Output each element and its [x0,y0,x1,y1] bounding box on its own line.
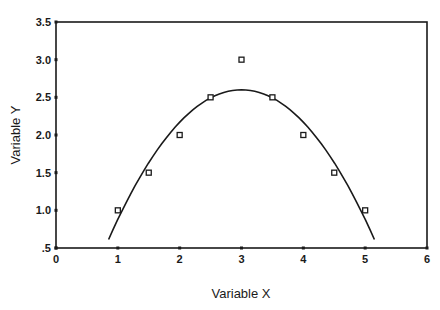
data-point-marker [208,95,213,100]
y-tick-label: .5 [42,242,51,254]
data-point-marker [332,170,337,175]
data-point-marker [239,57,244,62]
data-point-marker [270,95,275,100]
y-tick-label: 2.0 [36,129,51,141]
data-point-marker [177,133,182,138]
y-axis-ticks: .51.01.52.02.53.03.5 [36,16,58,254]
y-axis-label: Variable Y [8,105,23,164]
x-tick-label: 1 [115,253,121,265]
x-tick-mark [302,247,305,250]
x-axis-ticks: 0123456 [53,247,430,266]
y-tick-label: 2.5 [36,91,51,103]
y-tick-mark [55,96,58,99]
x-tick-label: 2 [177,253,183,265]
y-tick-mark [55,247,58,250]
x-tick-label: 6 [424,253,430,265]
plot-frame [56,22,427,248]
x-tick-mark [364,247,367,250]
y-tick-label: 1.5 [36,167,51,179]
x-tick-mark [116,247,119,250]
x-tick-label: 4 [300,253,307,265]
y-tick-mark [55,21,58,24]
y-tick-label: 1.0 [36,204,51,216]
scatter-chart: 0123456 .51.01.52.02.53.03.5 Variable X … [0,0,440,310]
x-tick-mark [178,247,181,250]
x-tick-label: 3 [238,253,244,265]
data-point-marker [115,208,120,213]
x-tick-label: 5 [362,253,368,265]
y-tick-label: 3.5 [36,16,51,28]
y-tick-mark [55,58,58,61]
y-tick-mark [55,209,58,212]
data-points [115,57,367,213]
y-tick-mark [55,134,58,137]
fit-curve [109,90,375,240]
x-tick-mark [240,247,243,250]
data-point-marker [363,208,368,213]
data-point-marker [146,170,151,175]
x-axis-label: Variable X [211,286,270,301]
y-tick-label: 3.0 [36,54,51,66]
x-tick-mark [426,247,429,250]
y-tick-mark [55,171,58,174]
plot-border [56,22,427,248]
data-point-marker [301,133,306,138]
x-tick-label: 0 [53,253,59,265]
